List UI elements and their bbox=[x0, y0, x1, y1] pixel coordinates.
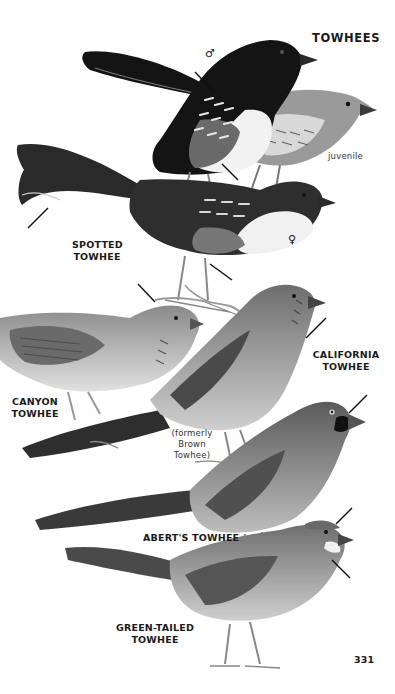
california-towhee-label: CALIFORNIA TOWHEE bbox=[308, 349, 384, 373]
field-guide-plate: TOWHEES ♂ juvenile SPOTTED TOWHEE ♀ CALI… bbox=[0, 0, 395, 694]
green-tailed-towhee-label: GREEN-TAILED TOWHEE bbox=[110, 622, 200, 646]
bird-illustrations bbox=[0, 0, 395, 694]
formerly-brown-towhee-note: (formerly Brown Towhee) bbox=[162, 428, 222, 461]
male-symbol: ♂ bbox=[205, 48, 215, 60]
spotted-towhee-label: SPOTTED TOWHEE bbox=[72, 239, 122, 263]
juvenile-label: juvenile bbox=[328, 151, 363, 162]
page-number: 331 bbox=[354, 654, 374, 666]
page-title: TOWHEES bbox=[312, 32, 380, 44]
canyon-towhee-label: CANYON TOWHEE bbox=[10, 396, 60, 420]
female-symbol: ♀ bbox=[288, 234, 296, 246]
aberts-towhee-label: ABERT'S TOWHEE bbox=[143, 532, 239, 544]
